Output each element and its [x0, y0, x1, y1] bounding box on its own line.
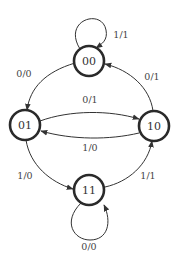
edge-label-10-01: 1/0 — [82, 142, 97, 153]
edge-01-10 — [40, 112, 139, 121]
state-label: 10 — [147, 120, 161, 133]
state-00: 00 — [74, 46, 104, 76]
edge-label-01-10: 0/1 — [82, 94, 97, 105]
edge-00-01 — [27, 63, 75, 110]
edge-01-11 — [26, 140, 73, 189]
state-10: 10 — [139, 111, 169, 141]
edge-10-01 — [41, 131, 139, 138]
edge-label-00-01: 0/0 — [16, 68, 31, 79]
edge-label-11-11: 0/0 — [81, 241, 96, 252]
edge-11-11 — [71, 203, 108, 240]
edge-label-01-11: 1/0 — [17, 170, 32, 181]
edge-00-00 — [75, 19, 106, 49]
state-01: 01 — [10, 110, 40, 140]
edge-label-00-00: 1/1 — [113, 29, 128, 40]
edge-label-10-00: 0/1 — [144, 71, 159, 82]
state-11: 11 — [74, 175, 104, 205]
state-label: 11 — [82, 184, 96, 197]
edge-label-11-10: 1/1 — [140, 170, 155, 181]
state-diagram: 00 01 10 11 1/1 0/0 0/1 1/0 0/1 1/0 1/1 … — [0, 0, 177, 260]
state-label: 01 — [18, 119, 32, 132]
state-label: 00 — [82, 55, 96, 68]
